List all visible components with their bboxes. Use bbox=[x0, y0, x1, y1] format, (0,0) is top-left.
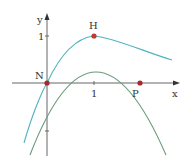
point-h bbox=[91, 33, 96, 38]
point-n bbox=[44, 80, 49, 85]
teal-curve bbox=[24, 36, 172, 143]
label-h: H bbox=[89, 20, 98, 31]
y-axis-arrow-icon bbox=[45, 13, 50, 20]
point-p bbox=[137, 80, 142, 85]
parabola-curve bbox=[30, 72, 166, 155]
y-axis-label: y bbox=[36, 14, 43, 25]
y-tick-label: 1 bbox=[38, 31, 44, 42]
label-p: P bbox=[132, 88, 139, 99]
diagram: y x 1 1 N H P bbox=[0, 0, 187, 163]
x-tick-label: 1 bbox=[91, 88, 97, 99]
x-axis-label: x bbox=[172, 88, 178, 99]
label-n: N bbox=[35, 70, 44, 81]
x-axis-arrow-icon bbox=[173, 81, 180, 86]
